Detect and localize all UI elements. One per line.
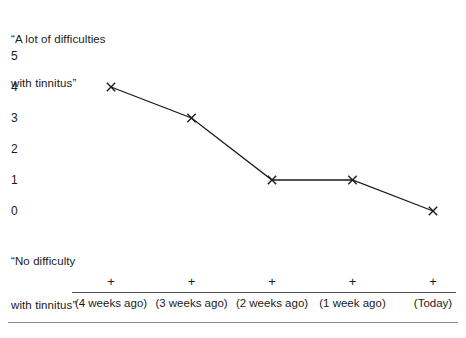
x-axis-line	[72, 292, 456, 293]
data-series-line	[111, 87, 433, 211]
data-point-marker	[107, 83, 115, 91]
x-axis-label-4: (Today)	[385, 296, 466, 310]
scale-anchor-low-line1: “No difficulty	[11, 254, 76, 269]
data-point-marker	[187, 114, 195, 122]
data-point-marker	[429, 207, 437, 215]
x-tick-mark-3: +	[344, 275, 362, 288]
y-tick-label-2: 2	[11, 143, 31, 155]
x-tick-mark-0: +	[102, 275, 120, 288]
y-tick-label-3: 3	[11, 112, 31, 124]
x-tick-mark-2: +	[263, 275, 281, 288]
y-tick-label-1: 1	[11, 174, 31, 186]
bottom-separator-rule	[8, 322, 458, 323]
y-tick-label-0: 0	[11, 205, 31, 217]
data-point-marker	[268, 176, 276, 184]
y-tick-label-4: 4	[11, 81, 31, 93]
x-tick-mark-1: +	[183, 275, 201, 288]
tinnitus-difficulty-line-chart: “A lot of difficulties with tinnitus” 54…	[0, 0, 466, 338]
data-point-marker	[348, 176, 356, 184]
data-point-markers	[107, 83, 437, 215]
x-tick-mark-4: +	[424, 275, 442, 288]
y-tick-label-5: 5	[11, 50, 31, 62]
